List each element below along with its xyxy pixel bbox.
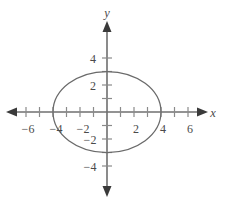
x-axis-right-arrow-icon bbox=[197, 108, 208, 117]
x-axis-group: x bbox=[6, 106, 216, 120]
y-tick-label: −2 bbox=[84, 133, 97, 147]
x-tick-label: 4 bbox=[160, 122, 166, 136]
coordinate-plane-svg: x y −6 −4 −2 2 bbox=[0, 0, 227, 207]
y-tick-label: −4 bbox=[84, 160, 97, 174]
y-axis-down-arrow-icon bbox=[103, 186, 112, 197]
y-tick-label: 2 bbox=[90, 79, 96, 93]
x-tick-label: 2 bbox=[133, 122, 139, 136]
x-axis-left-arrow-icon bbox=[6, 108, 17, 117]
graph-figure: x y −6 −4 −2 2 bbox=[0, 0, 227, 207]
y-tick-labels: 4 2 −2 −4 bbox=[84, 52, 97, 174]
y-tick-label: 4 bbox=[90, 52, 96, 66]
y-axis-group: y bbox=[102, 6, 112, 197]
x-tick-label: −4 bbox=[50, 122, 63, 136]
y-axis-label: y bbox=[102, 6, 110, 20]
x-tick-label: −6 bbox=[22, 122, 35, 136]
x-tick-label: 6 bbox=[187, 122, 193, 136]
y-axis-up-arrow-icon bbox=[103, 21, 112, 32]
x-axis-label: x bbox=[209, 106, 216, 120]
